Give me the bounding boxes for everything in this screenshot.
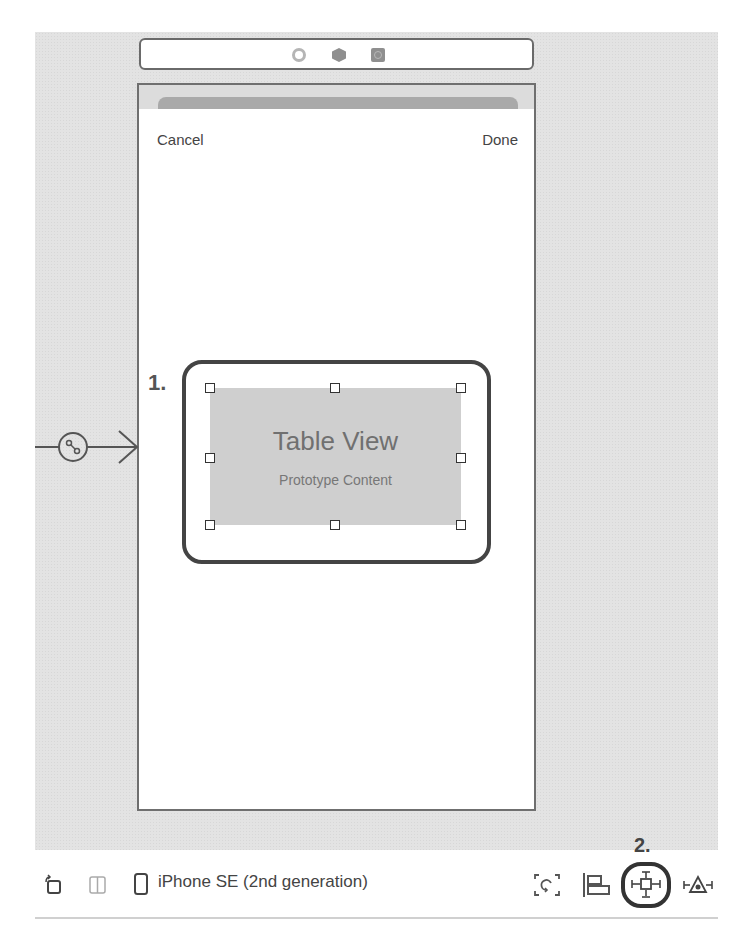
exit-icon[interactable] xyxy=(371,48,385,62)
entry-point-arrow[interactable] xyxy=(35,428,141,468)
view-controller-icon[interactable] xyxy=(332,48,346,62)
first-responder-icon[interactable] xyxy=(292,48,306,62)
resize-handle-top-left[interactable] xyxy=(205,383,215,393)
step-1-label: 1. xyxy=(148,370,166,396)
done-button[interactable]: Done xyxy=(482,131,518,148)
resize-handle-bottom-left[interactable] xyxy=(205,520,215,530)
resolve-autolayout-issues-icon[interactable] xyxy=(682,873,714,897)
toolbar-divider xyxy=(35,917,718,919)
cancel-button[interactable]: Cancel xyxy=(157,131,204,148)
device-selector[interactable]: iPhone SE (2nd generation) xyxy=(158,872,368,892)
resize-handle-bottom[interactable] xyxy=(330,520,340,530)
align-icon[interactable] xyxy=(582,872,612,898)
orientation-icon[interactable] xyxy=(43,874,65,896)
resize-handle-right[interactable] xyxy=(456,453,466,463)
split-view-icon[interactable] xyxy=(88,875,108,895)
update-frames-icon[interactable] xyxy=(533,872,561,898)
step-2-label: 2. xyxy=(634,834,651,857)
presenting-background xyxy=(139,85,534,109)
table-view-title: Table View xyxy=(210,426,461,457)
device-icon[interactable] xyxy=(132,872,150,896)
resize-handle-top-right[interactable] xyxy=(456,383,466,393)
table-view-subtitle: Prototype Content xyxy=(210,472,461,488)
resize-handle-top[interactable] xyxy=(330,383,340,393)
add-new-constraints-icon[interactable] xyxy=(630,870,662,900)
scene-dock xyxy=(139,38,534,70)
resize-handle-left[interactable] xyxy=(205,453,215,463)
table-view[interactable]: Table View Prototype Content xyxy=(210,388,461,525)
resize-handle-bottom-right[interactable] xyxy=(456,520,466,530)
